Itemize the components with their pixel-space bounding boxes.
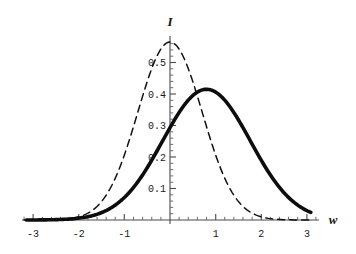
x-tick-label-1: 1 (213, 229, 219, 240)
x-tick-label--3: -3 (27, 229, 39, 240)
chart-canvas: -3 -2 -1 1 2 3 0.1 0.2 0.3 0.4 0.5 I w (0, 0, 356, 254)
solid-curve (26, 89, 311, 220)
y-tick-label-0.1: 0.1 (148, 184, 166, 195)
y-tick-label-0.4: 0.4 (148, 90, 166, 101)
x-tick-label-2: 2 (258, 229, 264, 240)
x-tick-label-3: 3 (304, 229, 310, 240)
y-axis-label: I (166, 14, 173, 29)
x-tick-label--2: -2 (73, 229, 85, 240)
x-axis-label: w (329, 212, 338, 227)
y-tick-label-0.5: 0.5 (148, 58, 166, 69)
y-tick-label-0.3: 0.3 (148, 121, 166, 132)
plot-area: -3 -2 -1 1 2 3 0.1 0.2 0.3 0.4 0.5 I w (0, 0, 356, 254)
x-tick-label--1: -1 (118, 229, 130, 240)
